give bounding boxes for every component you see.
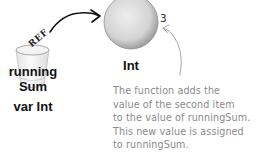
object-value: 3 — [160, 12, 167, 25]
object-type-label: Int — [111, 58, 151, 73]
variable-name-line1: running — [0, 64, 66, 79]
annotation-text: The function adds the value of the secon… — [113, 84, 250, 152]
variable-type-label: var Int — [0, 99, 66, 114]
annotation-line: The function adds the — [113, 84, 250, 98]
reference-arrow-icon — [50, 10, 100, 32]
int-object-icon — [104, 0, 158, 49]
annotation-line: to the value of runningSum. — [113, 111, 250, 125]
annotation-line: This new value is assigned — [113, 125, 250, 139]
variable-name-line2: Sum — [0, 79, 66, 94]
annotation-line: to runningSum. — [113, 138, 250, 152]
annotation-line: value of the second item — [113, 98, 250, 112]
annotation-arrow-icon — [163, 25, 181, 75]
